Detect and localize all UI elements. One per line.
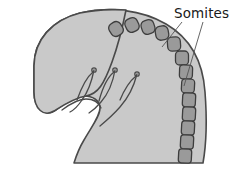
somite-block-7 bbox=[179, 65, 192, 79]
somite-block-12 bbox=[180, 135, 194, 150]
somite-block-13 bbox=[178, 149, 192, 164]
somite-block-8 bbox=[181, 79, 195, 94]
somite-block-4 bbox=[154, 25, 169, 41]
somites-label: Somites bbox=[174, 7, 229, 21]
somite-block-10 bbox=[182, 107, 196, 122]
somite-block-9 bbox=[182, 93, 196, 108]
somite-block-6 bbox=[176, 51, 189, 65]
embryo-diagram-svg bbox=[0, 0, 244, 180]
figure-canvas: Somites bbox=[0, 0, 244, 180]
somite-block-11 bbox=[181, 121, 195, 136]
